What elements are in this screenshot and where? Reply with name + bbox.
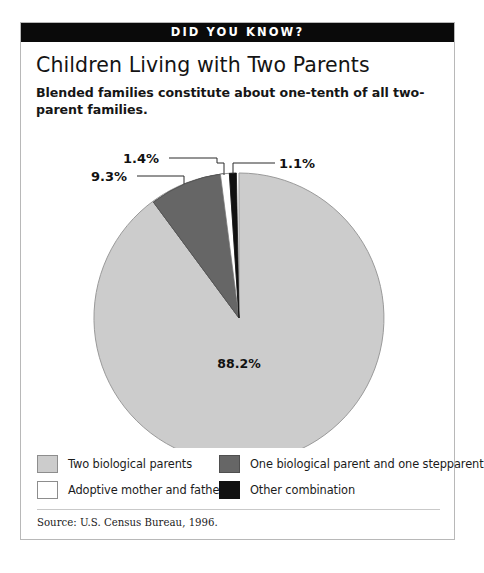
leader-line-1-4 xyxy=(169,158,224,175)
pie-label-9-3: 9.3% xyxy=(91,169,127,184)
legend-label-one-biological-one-stepparent: One biological parent and one stepparent xyxy=(250,457,484,471)
did-you-know-banner: DID YOU KNOW? xyxy=(21,23,454,42)
legend-row: Adoptive mother and father Other combina… xyxy=(37,477,442,503)
legend-label-two-biological-parents: Two biological parents xyxy=(68,457,192,471)
page-subtitle: Blended families constitute about one-te… xyxy=(36,85,440,118)
leader-line-9-3 xyxy=(137,176,184,184)
leader-line-1-1 xyxy=(233,163,275,174)
legend-label-other-combination: Other combination xyxy=(250,483,355,497)
legend-swatch-icon-two-biological-parents xyxy=(37,455,58,473)
legend-item-other-combination[interactable]: Other combination xyxy=(219,481,439,499)
legend-item-adoptive-mother-and-father[interactable]: Adoptive mother and father xyxy=(37,481,219,499)
legend-label-adoptive-mother-and-father: Adoptive mother and father xyxy=(68,483,224,497)
pie-chart-svg: 1.1% 1.4% 9.3% 88.2% xyxy=(21,118,454,448)
legend-item-one-biological-one-stepparent[interactable]: One biological parent and one stepparent xyxy=(219,455,439,473)
fact-card: DID YOU KNOW? Children Living with Two P… xyxy=(20,22,455,540)
legend-swatch-icon-one-biological-one-stepparent xyxy=(219,455,240,473)
banner-label: DID YOU KNOW? xyxy=(171,27,304,39)
page-title: Children Living with Two Parents xyxy=(36,53,370,77)
legend-item-two-biological-parents[interactable]: Two biological parents xyxy=(37,455,219,473)
legend-swatch-icon-other-combination xyxy=(219,481,240,499)
pie-label-1-1: 1.1% xyxy=(279,156,315,171)
footer-divider xyxy=(37,509,440,510)
chart-legend: Two biological parents One biological pa… xyxy=(37,451,442,503)
source-note: Source: U.S. Census Bureau, 1996. xyxy=(37,517,218,528)
legend-row: Two biological parents One biological pa… xyxy=(37,451,442,477)
pie-chart: 1.1% 1.4% 9.3% 88.2% xyxy=(21,118,454,448)
pie-label-1-4: 1.4% xyxy=(123,151,159,166)
pie-label-88-2: 88.2% xyxy=(217,356,261,371)
legend-swatch-icon-adoptive-mother-and-father xyxy=(37,481,58,499)
